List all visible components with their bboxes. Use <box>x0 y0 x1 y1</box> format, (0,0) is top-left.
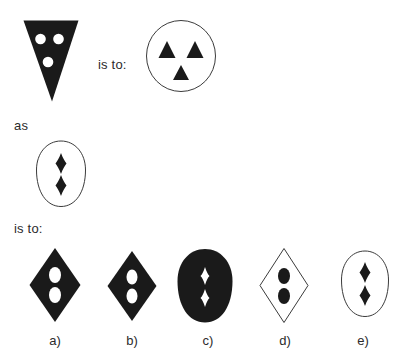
figure-inverted-triangle-with-white-circles <box>22 18 80 104</box>
option-c-figure[interactable] <box>176 248 234 324</box>
option-b-figure[interactable] <box>106 250 158 322</box>
option-a-figure[interactable] <box>28 247 82 323</box>
white-ellipse-inner <box>127 270 138 285</box>
white-circle-inner <box>35 34 46 45</box>
option-d-label[interactable]: d) <box>270 334 300 348</box>
is-to-label-1: is to: <box>98 58 127 72</box>
white-ellipse-inner <box>127 289 138 304</box>
option-c-label[interactable]: c) <box>193 334 223 348</box>
option-e-figure[interactable] <box>340 250 390 318</box>
diamond-outline-shape <box>260 249 308 323</box>
is-to-label-2: is to: <box>14 222 43 236</box>
black-diamond-shape <box>30 248 81 322</box>
option-b-label[interactable]: b) <box>117 334 147 348</box>
black-ellipse-inner <box>278 268 290 284</box>
figure-circle-with-black-triangles <box>145 19 217 93</box>
figure-egg-with-black-diamonds <box>35 140 87 208</box>
option-a-label[interactable]: a) <box>40 334 70 348</box>
egg-outline-shape <box>342 251 389 317</box>
black-diamond-shape <box>108 251 157 321</box>
black-egg-shape <box>178 249 233 323</box>
white-circle-inner <box>43 57 54 68</box>
as-label: as <box>14 119 28 133</box>
black-ellipse-inner <box>278 288 290 304</box>
option-e-label[interactable]: e) <box>348 334 378 348</box>
white-circle-inner <box>53 34 64 45</box>
puzzle-canvas: is to: as is to: a) <box>0 0 408 361</box>
circle-outline-shape <box>147 21 216 92</box>
white-ellipse-inner <box>49 267 61 283</box>
white-ellipse-inner <box>49 287 61 303</box>
option-d-figure[interactable] <box>258 247 310 324</box>
